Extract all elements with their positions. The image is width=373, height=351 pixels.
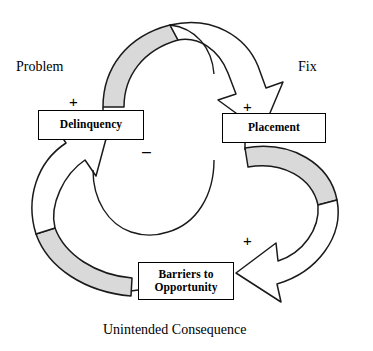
node-box-barriers[interactable]: Barriers to Opportunity (138, 262, 234, 300)
inner-edge-right-lower (168, 160, 214, 232)
polarity-sign-placement-plus: + (243, 99, 252, 114)
arrow-body-right (236, 200, 338, 302)
node-box-delinquency[interactable]: Delinquency (38, 110, 144, 140)
node-label-placement: Placement (248, 121, 300, 134)
caption-unintended-consequence: Unintended Consequence (103, 322, 246, 338)
arrow-body-left (32, 124, 110, 234)
caption-fix: Fix (298, 59, 317, 75)
node-label-barriers: Barriers to Opportunity (154, 268, 217, 294)
node-box-placement[interactable]: Placement (222, 113, 326, 143)
polarity-sign-delinquency-plus: + (69, 94, 78, 109)
inner-edge-bottom (131, 232, 168, 235)
arrow-shaded-tail-right (245, 146, 337, 205)
polarity-sign-barriers-plus: + (243, 233, 252, 248)
node-label-delinquency: Delinquency (60, 118, 122, 131)
arrow-shaded-tail-top (103, 25, 178, 107)
caption-problem: Problem (16, 59, 63, 75)
arrow-placement-to-barriers (236, 146, 338, 302)
stub-barriers-left (131, 290, 138, 291)
inner-edge-left-lower (93, 170, 131, 232)
arrow-shaded-tail-left (36, 228, 132, 296)
arrow-barriers-to-delinquency (32, 124, 132, 296)
polarity-sign-delinquency-minus: – (142, 144, 151, 160)
causal-loop-diagram: Delinquency Placement Barriers to Opport… (0, 0, 373, 351)
